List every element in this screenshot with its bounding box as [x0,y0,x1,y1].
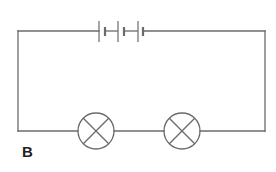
battery [99,21,143,42]
diagram-label: B [22,143,33,160]
lamp-1-icon [78,113,114,149]
circuit-diagram [0,0,276,172]
lamp-2-icon [164,113,200,149]
